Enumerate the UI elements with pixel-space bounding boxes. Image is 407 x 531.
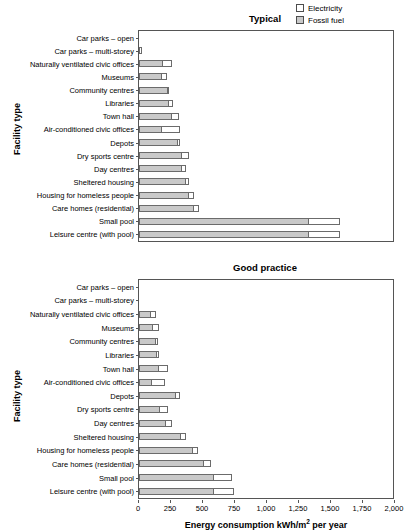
x-axis-tick-label: 0: [136, 504, 140, 513]
y-axis-tick-label: Air-conditioned civic offices: [44, 125, 134, 134]
bar-row: Depots: [139, 136, 393, 149]
x-axis-title-tail: per year: [310, 520, 348, 530]
y-axis-tick-label: Small pool: [99, 473, 134, 482]
y-axis-tick-label: Day centres: [94, 164, 134, 173]
x-axis-title-main: Energy consumption kWh/m: [185, 520, 307, 530]
bar-row: Small pool: [139, 471, 393, 485]
y-axis-tick-mark: [136, 409, 139, 410]
y-axis-tick-label: Housing for homeless people: [37, 191, 134, 200]
bar-segment-fossil-fuel: [139, 379, 151, 386]
bar-segment-fossil-fuel: [139, 100, 168, 107]
bar-row: Libraries: [139, 348, 393, 362]
y-axis-tick-mark: [136, 38, 139, 39]
bar-row: Day centres: [139, 416, 393, 430]
y-axis-tick-label: Car parks – open: [76, 33, 134, 42]
bar-segment-fossil-fuel: [139, 73, 161, 80]
y-axis-tick-mark: [136, 64, 139, 65]
stacked-bar: [139, 392, 180, 399]
y-axis-tick-label: Town hall: [103, 112, 134, 121]
x-axis-tick-label: 2,000: [385, 504, 404, 513]
bar-segment-electricity: [168, 100, 172, 107]
bar-segment-fossil-fuel: [139, 231, 308, 238]
x-axis-good-practice: 02505007501,0001,2501,5001,7502,000: [138, 500, 394, 516]
bar-row: Car parks – open: [139, 31, 393, 44]
y-axis-tick-mark: [136, 396, 139, 397]
bar-row: Libraries: [139, 97, 393, 110]
bar-row: Car parks – multi-storey: [139, 44, 393, 57]
stacked-bar: [139, 178, 189, 185]
bar-row: Dry sports centre: [139, 149, 393, 162]
x-axis-tick-label: 250: [164, 504, 177, 513]
y-axis-tick-mark: [136, 491, 139, 492]
stacked-bar: [139, 126, 180, 133]
bar-segment-fossil-fuel: [139, 324, 152, 331]
bar-segment-fossil-fuel: [139, 205, 193, 212]
y-axis-tick-label: Dry sports centre: [77, 405, 134, 414]
x-axis-title: Energy consumption kWh/m2 per year: [138, 518, 394, 530]
y-axis-tick-label: Libraries: [105, 350, 134, 359]
bar-segment-fossil-fuel: [139, 460, 203, 467]
bar-row: Town hall: [139, 110, 393, 123]
y-axis-tick-mark: [136, 195, 139, 196]
y-axis-tick-label: Libraries: [105, 99, 134, 108]
panel-good-practice: Good practice Facility type Car parks – …: [0, 262, 407, 531]
y-axis-tick-mark: [136, 423, 139, 424]
bar-segment-fossil-fuel: [139, 178, 185, 185]
x-axis-tick-mark: [170, 500, 171, 503]
x-axis-tick-mark: [362, 500, 363, 503]
x-axis-tick-mark: [266, 500, 267, 503]
y-axis-tick-label: Small pool: [99, 217, 134, 226]
stacked-bar: [139, 379, 165, 386]
y-axis-tick-label: Care homes (residential): [52, 204, 134, 213]
y-axis-tick-label: Sheltered housing: [74, 432, 134, 441]
plot-area-typical: Car parks – openCar parks – multi-storey…: [138, 30, 394, 242]
stacked-bar: [139, 60, 172, 67]
y-axis-tick-label: Town hall: [103, 364, 134, 373]
stacked-bar: [139, 406, 168, 413]
stacked-bar: [139, 324, 159, 331]
bar-rows-typical: Car parks – openCar parks – multi-storey…: [139, 31, 393, 241]
stacked-bar: [139, 100, 173, 107]
bar-segment-fossil-fuel: [139, 420, 165, 427]
bar-row: Leisure centre (with pool): [139, 228, 393, 241]
bar-segment-electricity: [192, 447, 198, 454]
stacked-bar: [139, 113, 179, 120]
y-axis-tick-mark: [136, 478, 139, 479]
stacked-bar: [139, 311, 156, 318]
y-axis-title-good-practice: Facility type: [12, 370, 22, 422]
y-axis-tick-mark: [136, 341, 139, 342]
stacked-bar: [139, 420, 172, 427]
y-axis-tick-label: Air-conditioned civic offices: [44, 378, 134, 387]
bar-row: Air-conditioned civic offices: [139, 123, 393, 136]
y-axis-tick-mark: [136, 369, 139, 370]
y-axis-tick-mark: [136, 143, 139, 144]
y-axis-tick-mark: [136, 208, 139, 209]
bar-row: Leisure centre (with pool): [139, 484, 393, 498]
bar-row: Care homes (residential): [139, 457, 393, 471]
bar-segment-electricity: [308, 218, 340, 225]
bar-segment-fossil-fuel: [139, 488, 213, 495]
panel-typical: Typical Facility type Car parks – openCa…: [0, 0, 407, 260]
bar-segment-electricity: [203, 460, 211, 467]
stacked-bar: [139, 447, 198, 454]
bar-row: Depots: [139, 389, 393, 403]
stacked-bar: [139, 488, 234, 495]
x-axis-tick-mark: [298, 500, 299, 503]
bar-segment-fossil-fuel: [139, 351, 156, 358]
y-axis-tick-mark: [136, 90, 139, 91]
bar-segment-electricity: [167, 87, 169, 94]
stacked-bar: [139, 152, 189, 159]
bar-segment-electricity: [155, 338, 158, 345]
bar-row: Car parks – open: [139, 280, 393, 294]
y-axis-tick-mark: [136, 437, 139, 438]
bar-segment-fossil-fuel: [139, 165, 181, 172]
y-axis-tick-mark: [136, 450, 139, 451]
y-axis-tick-mark: [136, 314, 139, 315]
stacked-bar: [139, 165, 186, 172]
stacked-bar: [139, 47, 142, 54]
y-axis-tick-mark: [136, 287, 139, 288]
bar-segment-electricity: [165, 420, 171, 427]
y-axis-tick-mark: [136, 382, 139, 383]
x-axis-tick-mark: [138, 500, 139, 503]
y-axis-tick-label: Housing for homeless people: [37, 446, 134, 455]
